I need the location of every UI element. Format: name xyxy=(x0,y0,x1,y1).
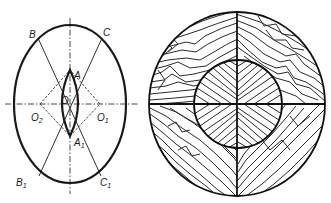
label-O1: O1 xyxy=(97,112,109,124)
label-C1: C1 xyxy=(100,177,111,189)
label-O: O xyxy=(61,95,69,106)
label-A: A xyxy=(73,70,81,81)
diagram-canvas: B C A O O2 O1 A1 B1 C1 xyxy=(0,0,331,203)
oval-construction: B C A O O2 O1 A1 B1 C1 xyxy=(5,18,138,194)
point-labels: B C A O O2 O1 A1 B1 C1 xyxy=(16,27,111,189)
wood-cross-section xyxy=(149,10,326,198)
label-C: C xyxy=(103,27,111,38)
label-B1: B1 xyxy=(16,177,27,189)
line-C-B1 xyxy=(39,38,102,176)
label-B: B xyxy=(29,29,36,40)
line-B-C1 xyxy=(38,38,101,176)
label-O2: O2 xyxy=(31,112,43,124)
label-A1: A1 xyxy=(73,137,85,149)
